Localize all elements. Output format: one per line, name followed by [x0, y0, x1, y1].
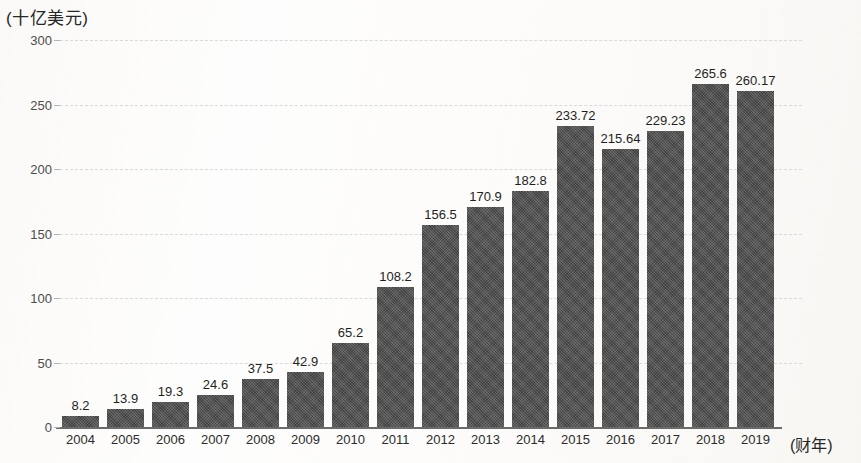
x-axis-category-label: 2015 — [561, 432, 590, 447]
y-axis-tick-label: 200 — [10, 162, 52, 177]
bar-value-label: 265.6 — [694, 66, 727, 81]
bar-value-label: 215.64 — [601, 131, 641, 146]
plot-area: 0501001502002503008.2200413.9200519.3200… — [60, 40, 802, 427]
x-axis-category-label: 2014 — [516, 432, 545, 447]
bar-value-label: 108.2 — [379, 269, 412, 284]
y-axis-tick-label: 150 — [10, 226, 52, 241]
y-axis-tick-mark — [54, 234, 60, 235]
y-axis-tick-mark — [54, 427, 60, 428]
bar[interactable] — [422, 225, 459, 427]
x-axis-category-label: 2017 — [651, 432, 680, 447]
bar[interactable] — [737, 91, 774, 427]
bar[interactable] — [287, 372, 324, 427]
y-axis-tick-mark — [54, 105, 60, 106]
x-axis-category-label: 2013 — [471, 432, 500, 447]
bar-group: 170.92013 — [467, 40, 504, 427]
bar-value-label: 233.72 — [556, 108, 596, 123]
y-axis-tick-label: 250 — [10, 97, 52, 112]
chart-canvas: (十亿美元) 0501001502002503008.2200413.92005… — [0, 0, 861, 463]
x-axis-category-label: 2005 — [111, 432, 140, 447]
bar[interactable] — [602, 149, 639, 427]
x-axis-category-label: 2010 — [336, 432, 365, 447]
y-axis-label: (十亿美元) — [6, 4, 88, 29]
x-axis-category-label: 2018 — [696, 432, 725, 447]
y-axis-tick-label: 50 — [10, 355, 52, 370]
bar-group: 182.82014 — [512, 40, 549, 427]
bar[interactable] — [512, 191, 549, 427]
x-axis-category-label: 2008 — [246, 432, 275, 447]
bar[interactable] — [197, 395, 234, 427]
bar-group: 37.52008 — [242, 40, 279, 427]
y-axis-tick-mark — [54, 363, 60, 364]
bar-group: 108.22011 — [377, 40, 414, 427]
x-axis-category-label: 2019 — [741, 432, 770, 447]
bar-value-label: 260.17 — [736, 73, 776, 88]
bar-value-label: 156.5 — [424, 207, 457, 222]
bar-group: 13.92005 — [107, 40, 144, 427]
bar[interactable] — [377, 287, 414, 427]
bar[interactable] — [467, 207, 504, 427]
bar[interactable] — [152, 402, 189, 427]
bar-value-label: 13.9 — [113, 391, 138, 406]
bar-value-label: 37.5 — [248, 361, 273, 376]
bar-group: 229.232017 — [647, 40, 684, 427]
x-axis-category-label: 2016 — [606, 432, 635, 447]
bar[interactable] — [647, 131, 684, 427]
bar[interactable] — [242, 379, 279, 427]
bar-value-label: 8.2 — [71, 398, 89, 413]
y-axis-tick-mark — [54, 40, 60, 41]
y-axis-tick-label: 0 — [10, 420, 52, 435]
bar-group: 233.722015 — [557, 40, 594, 427]
x-axis-category-label: 2012 — [426, 432, 455, 447]
bar-value-label: 65.2 — [338, 325, 363, 340]
bar-group: 215.642016 — [602, 40, 639, 427]
bar[interactable] — [62, 416, 99, 427]
bar-value-label: 42.9 — [293, 354, 318, 369]
x-axis-category-label: 2004 — [66, 432, 95, 447]
x-axis-category-label: 2011 — [382, 432, 410, 447]
x-axis-category-label: 2009 — [291, 432, 320, 447]
y-axis-tick-mark — [54, 169, 60, 170]
bar-value-label: 24.6 — [203, 377, 228, 392]
x-axis-category-label: 2007 — [201, 432, 230, 447]
y-axis-tick-label: 300 — [10, 33, 52, 48]
bar-value-label: 19.3 — [158, 384, 183, 399]
bar-value-label: 229.23 — [646, 113, 686, 128]
x-axis-label: (财年) — [790, 432, 833, 456]
bar-group: 42.92009 — [287, 40, 324, 427]
bar-group: 65.22010 — [332, 40, 369, 427]
x-axis-category-label: 2006 — [156, 432, 185, 447]
bar-group: 24.62007 — [197, 40, 234, 427]
bar-group: 19.32006 — [152, 40, 189, 427]
bar-value-label: 170.9 — [469, 189, 502, 204]
bar[interactable] — [557, 126, 594, 427]
y-axis-tick-label: 100 — [10, 291, 52, 306]
bar-group: 265.62018 — [692, 40, 729, 427]
bar-group: 156.52012 — [422, 40, 459, 427]
bar-value-label: 182.8 — [514, 173, 547, 188]
bar-group: 260.172019 — [737, 40, 774, 427]
bar-group: 8.22004 — [62, 40, 99, 427]
bar[interactable] — [332, 343, 369, 427]
bar[interactable] — [692, 84, 729, 427]
y-axis-tick-mark — [54, 298, 60, 299]
axis-baseline — [56, 427, 782, 429]
bar[interactable] — [107, 409, 144, 427]
